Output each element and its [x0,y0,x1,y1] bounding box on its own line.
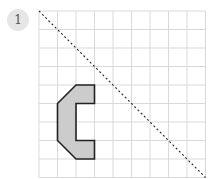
mirror-line [39,11,206,178]
grid-diagram [0,0,211,179]
